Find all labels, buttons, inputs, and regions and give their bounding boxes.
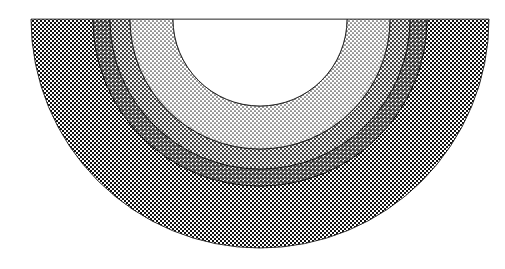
figure-root	[0, 0, 505, 269]
half-annulus-diagram	[0, 0, 505, 269]
